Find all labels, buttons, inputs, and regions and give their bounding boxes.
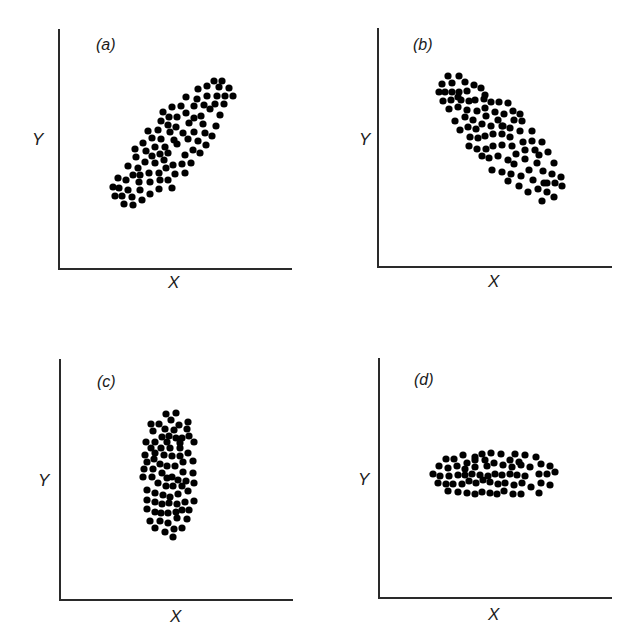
scatter-series-a — [109, 77, 236, 208]
data-point — [171, 462, 178, 469]
data-point — [469, 116, 476, 123]
panel-label: (c) — [97, 373, 116, 391]
data-point — [203, 92, 210, 99]
data-point — [194, 85, 201, 92]
data-point — [181, 498, 188, 505]
data-point — [151, 143, 158, 150]
data-point — [190, 102, 197, 109]
x-axis — [58, 268, 292, 270]
data-point — [161, 143, 168, 150]
data-point — [481, 456, 488, 463]
data-point — [459, 451, 466, 458]
data-point — [200, 101, 207, 108]
data-point — [175, 421, 182, 428]
data-point — [143, 496, 150, 503]
data-point — [442, 455, 449, 462]
data-point — [172, 409, 179, 416]
data-point — [176, 452, 183, 459]
data-point — [197, 112, 204, 119]
data-point — [498, 130, 505, 137]
data-point — [140, 465, 147, 472]
data-point — [167, 416, 174, 423]
data-point — [473, 107, 480, 114]
data-point — [450, 455, 457, 462]
data-point — [171, 170, 178, 177]
data-point — [181, 169, 188, 176]
data-point — [448, 79, 455, 86]
data-point — [482, 112, 489, 119]
data-point — [517, 172, 524, 179]
data-point — [544, 148, 551, 155]
data-point — [538, 138, 545, 145]
data-point — [465, 97, 472, 104]
data-point — [499, 122, 506, 129]
data-point — [494, 116, 501, 123]
data-point — [435, 462, 442, 469]
data-point — [493, 490, 500, 497]
data-point — [527, 483, 534, 490]
data-point — [141, 158, 148, 165]
data-point — [498, 122, 505, 129]
data-point — [510, 116, 517, 123]
data-point — [543, 179, 550, 186]
data-point — [478, 488, 485, 495]
data-point — [225, 84, 232, 91]
panel-label: (d) — [414, 371, 434, 389]
data-point — [129, 171, 136, 178]
data-point — [172, 123, 179, 130]
data-point — [471, 490, 478, 497]
data-point — [141, 451, 148, 458]
data-point — [457, 96, 464, 103]
data-point — [111, 192, 118, 199]
data-point — [128, 193, 135, 200]
data-point — [151, 489, 158, 496]
data-point — [515, 458, 522, 465]
data-point — [151, 438, 158, 445]
data-point — [481, 132, 488, 139]
data-point — [164, 176, 171, 183]
data-point — [480, 95, 487, 102]
data-point — [445, 105, 452, 112]
data-point — [165, 432, 172, 439]
data-point — [454, 93, 461, 100]
data-point — [190, 114, 197, 121]
data-point — [441, 88, 448, 95]
data-point — [170, 136, 177, 143]
data-point — [145, 169, 152, 176]
data-point — [451, 117, 458, 124]
data-point — [182, 109, 189, 116]
data-point — [169, 482, 176, 489]
data-point — [465, 477, 472, 484]
data-point — [454, 471, 461, 478]
data-point — [206, 105, 213, 112]
data-point — [508, 463, 515, 470]
data-point — [444, 72, 451, 79]
data-point — [463, 459, 470, 466]
data-point — [532, 453, 539, 460]
data-point — [131, 145, 138, 152]
data-point — [463, 489, 470, 496]
data-point — [494, 480, 501, 487]
data-point — [455, 72, 462, 79]
data-point — [155, 169, 162, 176]
data-point — [461, 78, 468, 85]
y-axis — [377, 28, 379, 268]
data-point — [155, 420, 162, 427]
data-point — [158, 500, 165, 507]
data-point — [142, 438, 149, 445]
data-point — [179, 468, 186, 475]
data-point — [525, 166, 532, 173]
data-point — [518, 479, 525, 486]
data-point — [535, 489, 542, 496]
data-point — [537, 460, 544, 467]
data-point — [482, 145, 489, 152]
data-point — [132, 153, 139, 160]
data-point — [148, 152, 155, 159]
data-point — [516, 110, 523, 117]
data-point — [509, 490, 516, 497]
data-point — [506, 456, 513, 463]
data-point — [476, 471, 483, 478]
data-point — [463, 87, 470, 94]
data-point — [506, 133, 513, 140]
data-point — [154, 479, 161, 486]
